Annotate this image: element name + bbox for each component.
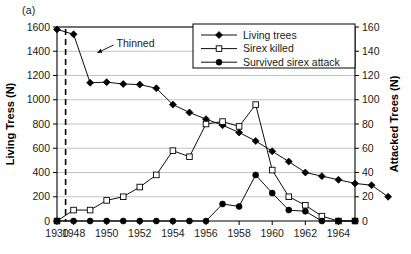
y-tick-label: 400: [32, 166, 50, 178]
marker-filled-circle: [216, 59, 222, 65]
marker-open-square: [303, 202, 309, 208]
panel-label: (a): [22, 4, 35, 16]
marker-filled-diamond: [302, 169, 309, 176]
marker-filled-circle: [137, 218, 143, 224]
marker-open-square: [154, 172, 160, 178]
marker-filled-diamond: [269, 148, 276, 155]
marker-filled-circle: [104, 218, 110, 224]
marker-open-square: [220, 119, 226, 125]
y-axis-right-title: Attacked Trees (N): [388, 75, 400, 172]
marker-filled-circle: [269, 190, 275, 196]
x-tick-label: 1962: [294, 227, 318, 239]
y2-tick-label: 100: [362, 93, 380, 105]
x-tick-label: 1956: [194, 227, 218, 239]
marker-open-square: [87, 207, 93, 213]
marker-filled-circle: [54, 218, 60, 224]
marker-filled-circle: [319, 218, 325, 224]
marker-filled-diamond: [335, 176, 342, 183]
marker-filled-circle: [153, 218, 159, 224]
marker-filled-circle: [352, 218, 358, 224]
y-tick-label: 1200: [27, 69, 51, 81]
marker-filled-circle: [286, 207, 292, 213]
marker-filled-diamond: [87, 79, 94, 86]
annotation-label: Thinned: [117, 37, 155, 49]
marker-open-square: [253, 102, 259, 108]
marker-open-square: [236, 124, 242, 130]
marker-filled-diamond: [70, 31, 77, 38]
marker-open-square: [187, 154, 193, 160]
marker-filled-diamond: [285, 158, 292, 165]
marker-filled-diamond: [318, 173, 325, 180]
marker-filled-circle: [87, 218, 93, 224]
marker-filled-diamond: [186, 109, 193, 116]
x-tick-label: 1950: [95, 227, 119, 239]
marker-filled-circle: [253, 172, 259, 178]
y2-tick-label: 40: [362, 166, 374, 178]
x-tick-label: 1964: [327, 227, 351, 239]
marker-filled-diamond: [136, 81, 143, 88]
y-tick-label: 1400: [27, 45, 51, 57]
x-tick-label: 1960: [261, 227, 285, 239]
y2-tick-label: 120: [362, 69, 380, 81]
legend-label: Survived sirex attack: [243, 56, 341, 68]
marker-filled-diamond: [103, 79, 110, 86]
y-tick-label: 200: [32, 190, 50, 202]
y2-tick-label: 140: [362, 45, 380, 57]
series-line: [57, 175, 355, 221]
chart-legend: Living treesSirex killedSurvived sirex a…: [193, 24, 355, 68]
marker-filled-circle: [170, 218, 176, 224]
x-tick-label: 1954: [161, 227, 185, 239]
annotations: Thinned: [98, 37, 155, 52]
y-tick-label: 0: [44, 215, 50, 227]
y-tick-label: 800: [32, 118, 50, 130]
marker-filled-circle: [335, 218, 341, 224]
marker-open-square: [170, 148, 176, 154]
marker-filled-circle: [186, 218, 192, 224]
marker-open-square: [269, 167, 275, 173]
y2-tick-label: 0: [362, 215, 368, 227]
x-tick-label: 1948: [62, 227, 86, 239]
marker-filled-diamond: [385, 193, 392, 200]
marker-filled-diamond: [252, 137, 259, 144]
marker-filled-diamond: [236, 129, 243, 136]
marker-open-square: [104, 198, 110, 204]
marker-filled-circle: [120, 218, 126, 224]
x-tick-label: 1952: [128, 227, 152, 239]
marker-open-square: [203, 121, 209, 127]
marker-open-square: [286, 194, 292, 200]
y-tick-label: 600: [32, 142, 50, 154]
y2-tick-label: 160: [362, 21, 380, 33]
marker-open-square: [71, 207, 77, 213]
chart-canvas: 02004006008001000120014001600 0204060801…: [0, 0, 411, 254]
marker-filled-circle: [236, 203, 242, 209]
y-axis-left-title: Living Tress (N): [4, 82, 16, 165]
marker-open-square: [137, 184, 143, 190]
y-axis-left-ticks: 02004006008001000120014001600: [27, 21, 57, 227]
series-filled-circle: [54, 172, 358, 224]
y2-tick-label: 80: [362, 118, 374, 130]
y2-tick-label: 20: [362, 190, 374, 202]
marker-open-square: [216, 46, 222, 52]
marker-filled-circle: [302, 208, 308, 214]
y-axis-right-ticks: 020406080100120140160: [355, 21, 380, 227]
y-tick-label: 1600: [27, 21, 51, 33]
legend-label: Living trees: [243, 29, 297, 41]
marker-filled-circle: [220, 201, 226, 207]
legend-label: Sirex killed: [243, 42, 294, 54]
y2-tick-label: 60: [362, 142, 374, 154]
figure-panel: (a) 02004006008001000120014001600 020406…: [0, 0, 411, 254]
marker-filled-diamond: [352, 180, 359, 187]
marker-filled-circle: [203, 218, 209, 224]
x-tick-label: 1958: [227, 227, 251, 239]
marker-filled-circle: [71, 218, 77, 224]
marker-filled-diamond: [120, 80, 127, 87]
marker-filled-diamond: [368, 182, 375, 189]
marker-open-square: [120, 194, 126, 200]
y-tick-label: 1000: [27, 93, 51, 105]
